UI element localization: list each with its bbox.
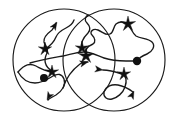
left-circle	[13, 9, 115, 111]
star-right-upper	[120, 16, 135, 30]
arrow-center-right	[95, 66, 104, 73]
dot-right	[133, 57, 141, 65]
figure-container	[0, 0, 177, 121]
dot-left	[40, 74, 48, 82]
trajectory-curve-f	[103, 70, 133, 99]
trajectory-curve-d	[63, 62, 88, 88]
overlapping-circles-diagram	[0, 0, 177, 121]
star-upper-left	[38, 42, 51, 55]
arrow-top-left	[50, 20, 60, 30]
star-right-lower	[117, 67, 130, 80]
